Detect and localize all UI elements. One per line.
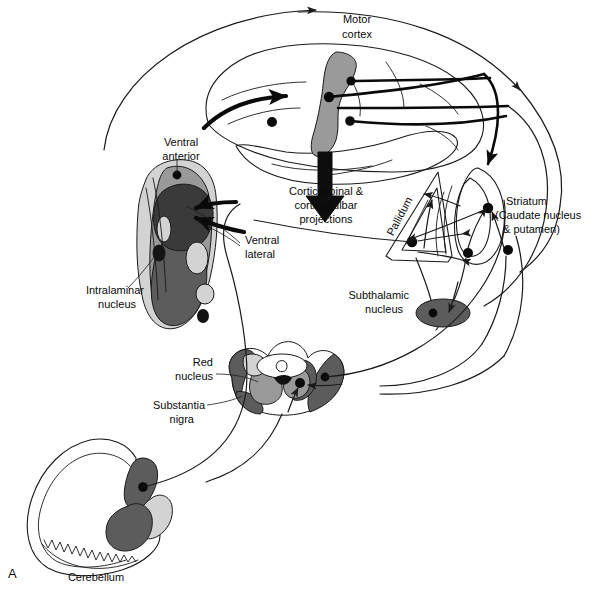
label-subthalamic-line2: nucleus xyxy=(365,303,403,315)
label-intralaminar-line2: nucleus xyxy=(98,298,136,310)
hemisphere-sulcus-2 xyxy=(228,108,300,124)
cerebellum xyxy=(27,439,172,576)
label-red-nucleus-line1: Red xyxy=(193,356,213,368)
motor-cortex-shape xyxy=(311,52,356,156)
figure-panel-a: Motor cortex Ventral anterior Ventral la… xyxy=(0,0,604,592)
label-substantia-nigra-line2: nigra xyxy=(170,413,195,425)
hemisphere-sulcus-4 xyxy=(386,62,404,108)
label-intralaminar-line1: Intralaminar xyxy=(86,284,144,296)
midbrain-to-thalamus-pathway xyxy=(206,414,282,482)
outer-arc-left-to-cortex xyxy=(104,10,316,150)
hemisphere-sulcus-5 xyxy=(420,84,458,114)
hemisphere-sulcus-6 xyxy=(426,126,458,150)
thalamus-small-oval-left xyxy=(157,216,171,242)
label-motor-cortex-line2: cortex xyxy=(342,28,372,40)
panel-letter-a: A xyxy=(8,566,17,581)
striatum-neuron-dot-2 xyxy=(463,248,473,258)
motor-cortex-strip xyxy=(311,52,356,156)
label-ventral-lateral-line2: lateral xyxy=(245,248,275,260)
dentate-nucleus-inferior xyxy=(106,504,152,551)
label-striatum-line2: (Caudate nucleus xyxy=(495,209,582,221)
striatum-neuron-dot-3 xyxy=(503,245,513,255)
label-ventral-lateral-line1: Ventral xyxy=(245,234,279,246)
pallidum-incoming-arrow-lower xyxy=(418,252,462,260)
subthalamic-nucleus xyxy=(416,258,470,327)
temporal-lobe-outline xyxy=(236,131,458,184)
subthalamic-neuron-dot xyxy=(429,309,438,318)
thalamus xyxy=(137,160,217,329)
label-corticospinal-line3: projections xyxy=(299,213,353,225)
label-red-nucleus-line2: nucleus xyxy=(175,370,213,382)
label-motor-cortex-line1: Motor xyxy=(343,13,371,25)
pallidum-internal-arrow-up xyxy=(424,200,432,248)
neuroanatomy-circuit-diagram: Motor cortex Ventral anterior Ventral la… xyxy=(0,0,604,592)
intralaminar-nucleus-shape xyxy=(153,245,165,261)
cerebellum-inner-outline xyxy=(38,453,130,567)
label-corticospinal-line2: corticobulbar xyxy=(295,199,358,211)
label-corticospinal-line1: Corticospinal & xyxy=(289,185,364,197)
cortex-efferent-from-dot2 xyxy=(351,78,490,81)
descending-loop-lower-right xyxy=(380,356,504,394)
stn-to-pallidum-fiber xyxy=(416,258,431,300)
striatum-internal-arrow-1 xyxy=(468,208,486,248)
label-subthalamic-line1: Subthalamic xyxy=(348,289,409,301)
label-substantia-nigra-line1: Substantia xyxy=(153,399,206,411)
thalamus-inferior-black-node xyxy=(197,309,209,323)
cortex-efferent-mid xyxy=(338,106,508,108)
midbrain-neuron-dot-1 xyxy=(295,378,305,388)
striatum-inner-shell xyxy=(456,178,490,256)
label-cerebellum: Cerebellum xyxy=(68,571,124,583)
label-ventral-anterior-line2: anterior xyxy=(162,150,200,162)
label-striatum-line1: Striatum xyxy=(506,195,547,207)
terminal-dot-cortex-3 xyxy=(267,117,277,127)
thalamus-lower-oval xyxy=(196,284,214,304)
label-ventral-anterior-line1: Ventral xyxy=(164,136,198,148)
label-striatum-line3: & putamen) xyxy=(503,223,560,235)
thalamus-inner-oval xyxy=(186,242,208,274)
aqueduct-lumen xyxy=(276,361,287,372)
